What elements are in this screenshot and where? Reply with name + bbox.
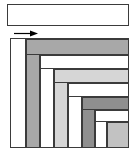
- nested-l-spiral: [10, 38, 129, 148]
- band-gray-light-3-vertical-arm: [54, 83, 68, 148]
- band-gray-pale-inner: [107, 122, 129, 148]
- band-gray-dark-5-vertical-arm: [82, 110, 95, 148]
- band-white-2-horizontal-arm: [40, 55, 129, 69]
- band-white-2-vertical-arm: [40, 69, 54, 148]
- band-gray-top-1-horizontal-arm: [26, 39, 129, 55]
- band-gray-dark-5-horizontal-arm: [82, 97, 129, 110]
- band-gray-top-1-vertical-arm: [26, 55, 40, 148]
- band-white-4-horizontal-arm: [68, 83, 129, 97]
- band-white-6-horizontal-arm: [95, 110, 129, 122]
- band-gray-light-3-horizontal-arm: [54, 69, 129, 83]
- band-white-6-vertical-arm: [95, 122, 107, 148]
- band-white-4-vertical-arm: [68, 97, 82, 148]
- right-arrow: [14, 30, 38, 37]
- figure-root: [0, 0, 137, 153]
- band-white-outer-vertical-arm: [11, 39, 26, 148]
- empty-rectangle: [7, 4, 129, 26]
